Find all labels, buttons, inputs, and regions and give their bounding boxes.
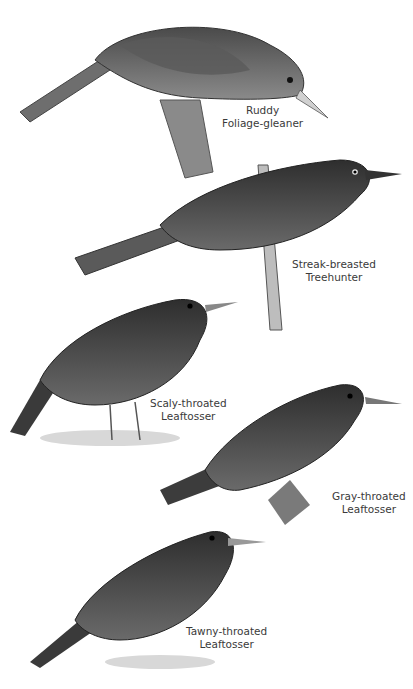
- label-tawny-throated-leaftosser: Tawny-throated Leaftosser: [186, 625, 267, 651]
- field-guide-plate: Ruddy Foliage-gleaner Streak-breasted Tr…: [0, 0, 413, 689]
- scaly-throated-leaftosser-illustration: [10, 299, 238, 446]
- label-scaly-throated-leaftosser: Scaly-throated Leaftosser: [150, 397, 227, 423]
- ruddy-foliage-gleaner-illustration: [20, 27, 328, 178]
- streak-breasted-treehunter-illustration: [75, 160, 402, 330]
- label-streak-breasted-treehunter: Streak-breasted Treehunter: [292, 258, 376, 284]
- label-gray-throated-leaftosser: Gray-throated Leaftosser: [332, 490, 406, 516]
- bird-illustrations: [0, 0, 413, 689]
- label-ruddy-foliage-gleaner: Ruddy Foliage-gleaner: [222, 104, 303, 130]
